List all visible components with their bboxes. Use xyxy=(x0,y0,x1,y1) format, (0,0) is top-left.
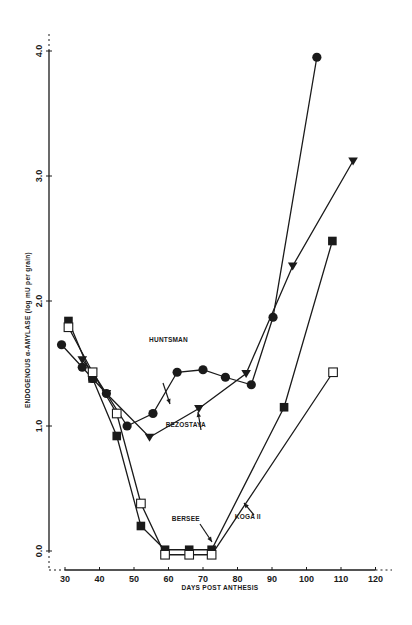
x-tick-label: 50 xyxy=(129,574,139,584)
y-axis-title: ENDOGENOUS α-AMYLASE (log mU per grain) xyxy=(24,252,32,408)
y-tick-label: 4.0 xyxy=(34,45,44,58)
x-tick-label: 90 xyxy=(267,574,277,584)
open-square-marker xyxy=(88,368,97,377)
series-label-huntsman: HUNTSMAN xyxy=(149,336,188,343)
series-koga-ii xyxy=(64,323,337,559)
series-line xyxy=(62,57,317,426)
x-tick-label: 70 xyxy=(198,574,208,584)
x-tick-label: 40 xyxy=(94,574,104,584)
triangle-marker xyxy=(194,405,204,413)
open-square-marker xyxy=(112,409,121,418)
filled-square-marker xyxy=(328,237,337,246)
x-tick-label: 80 xyxy=(232,574,242,584)
x-tick-label: 100 xyxy=(299,574,314,584)
circle-marker xyxy=(312,53,321,62)
circle-marker xyxy=(148,409,157,418)
open-square-marker xyxy=(207,550,216,559)
x-tick-label: 110 xyxy=(334,574,349,584)
circle-marker xyxy=(221,373,230,382)
triangle-marker xyxy=(348,158,358,166)
series-group xyxy=(57,53,358,559)
filled-square-marker xyxy=(280,403,289,412)
series-label-koga-ii: KOGA II xyxy=(235,513,261,520)
triangle-marker xyxy=(241,370,251,378)
y-tick-label: 1.0 xyxy=(34,420,44,433)
open-square-marker xyxy=(185,550,194,559)
circle-marker xyxy=(173,368,182,377)
circle-marker xyxy=(57,340,66,349)
series-line xyxy=(82,161,353,437)
circle-marker xyxy=(198,365,207,374)
arrow-head-icon xyxy=(207,537,212,542)
series-line xyxy=(68,327,333,555)
open-square-marker xyxy=(137,499,146,508)
y-tick-label: 3.0 xyxy=(34,170,44,183)
x-tick-label: 60 xyxy=(163,574,173,584)
triangle-marker xyxy=(145,434,155,442)
x-tick-label: 30 xyxy=(60,574,70,584)
x-tick-label: 120 xyxy=(368,574,383,584)
axes: 304050607080901001101200.01.02.03.04.0 xyxy=(34,34,392,584)
circle-marker xyxy=(123,421,132,430)
y-tick-label: 2.0 xyxy=(34,295,44,308)
x-axis-title: DAYS POST ANTHESIS xyxy=(182,584,259,591)
y-tick-label: 0.0 xyxy=(34,545,44,558)
open-square-marker xyxy=(329,368,338,377)
open-square-marker xyxy=(64,323,73,332)
arrow-head-icon xyxy=(166,399,170,404)
triangle-marker xyxy=(288,263,298,271)
series-label-bersee: BERSEE xyxy=(172,515,200,522)
open-square-marker xyxy=(161,550,170,559)
line-chart: 304050607080901001101200.01.02.03.04.0 H… xyxy=(0,0,412,625)
filled-square-marker xyxy=(137,522,146,531)
circle-marker xyxy=(247,380,256,389)
filled-square-marker xyxy=(112,432,121,441)
